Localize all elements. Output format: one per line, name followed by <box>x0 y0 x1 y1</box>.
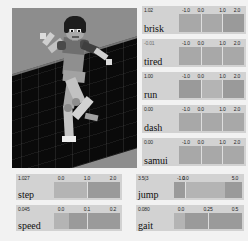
slider-value-samui: 0.00 <box>144 139 153 145</box>
slider-divider-step-1 <box>87 182 88 198</box>
slider-speed[interactable]: 0.045speed0.00.10.2 <box>16 205 122 231</box>
slider-divider-samui-2 <box>222 146 223 164</box>
slider-divider-dash-1 <box>201 113 202 131</box>
slider-label-run: run <box>144 89 157 100</box>
figure-right-pupil <box>78 30 80 32</box>
slider-run[interactable]: 1.00run-1.00.01.02.0 <box>142 72 246 100</box>
slider-tick-run-2: 1.0 <box>219 73 225 79</box>
slider-label-dash: dash <box>144 122 162 133</box>
slider-tick-samui-2: 1.0 <box>219 139 225 145</box>
figure-hair-left <box>64 22 69 33</box>
slider-fill-step[interactable] <box>54 182 88 198</box>
slider-jump[interactable]: 3.5(3jump-1.00.05.0 <box>136 174 244 200</box>
slider-divider-samui-1 <box>201 146 202 164</box>
slider-track-speed[interactable] <box>54 213 120 229</box>
slider-tick-labels-step: 0.01.02.0 <box>54 175 120 181</box>
slider-track-run[interactable] <box>179 80 244 98</box>
slider-label-speed: speed <box>18 220 41 231</box>
slider-divider-gait-1 <box>208 213 209 229</box>
slider-tick-labels-dash: -1.00.01.02.0 <box>179 106 244 112</box>
slider-label-gait: gait <box>138 220 153 231</box>
figure-hair-right <box>81 22 86 33</box>
slider-track-gait[interactable] <box>174 213 242 229</box>
slider-tick-speed-0: 0.0 <box>58 206 64 212</box>
slider-tick-run-0: -1.0 <box>182 73 190 79</box>
slider-divider-tired-1 <box>201 47 202 65</box>
slider-tick-labels-speed: 0.00.10.2 <box>54 206 120 212</box>
slider-tick-labels-gait: 0.00.250.5 <box>174 206 242 212</box>
slider-track-jump[interactable] <box>174 182 242 198</box>
slider-value-tired: -0.01 <box>144 40 154 46</box>
slider-tired[interactable]: -0.01tired-1.00.01.02.0 <box>142 39 246 67</box>
slider-tick-tired-0: -1.0 <box>182 40 190 46</box>
figure-left-shoulder <box>57 41 66 50</box>
slider-tick-step-2: 2.0 <box>110 175 116 181</box>
slider-fill-jump[interactable] <box>185 182 225 198</box>
figure-mouth <box>72 36 79 38</box>
slider-tick-gait-0: 0.0 <box>178 206 184 212</box>
slider-gait[interactable]: 0.080gait0.00.250.5 <box>136 205 244 231</box>
slider-tick-samui-0: -1.0 <box>182 139 190 145</box>
slider-tick-speed-1: 0.1 <box>84 206 90 212</box>
humanoid-figure <box>12 8 137 168</box>
slider-tick-labels-tired: -1.00.01.02.0 <box>179 40 244 46</box>
figure-back-foot <box>62 136 76 142</box>
slider-divider-brisk-2 <box>222 14 223 32</box>
slider-label-step: step <box>18 189 34 200</box>
slider-divider-run-1 <box>201 80 202 98</box>
slider-tick-gait-1: 0.25 <box>204 206 213 212</box>
slider-value-brisk: 1.02 <box>144 7 153 13</box>
slider-value-step: 1.027 <box>18 175 30 181</box>
app-root: 1.02brisk-1.00.01.02.0-0.01tired-1.00.01… <box>0 0 248 241</box>
slider-tick-step-0: 0.0 <box>58 175 64 181</box>
character-viewport[interactable] <box>12 8 137 168</box>
slider-fill-gait[interactable] <box>174 213 185 229</box>
slider-tick-dash-0: -1.0 <box>182 106 190 112</box>
figure-front-foot <box>85 113 99 122</box>
slider-track-samui[interactable] <box>179 146 244 164</box>
slider-step[interactable]: 1.027step0.01.02.0 <box>16 174 122 200</box>
slider-tick-step-1: 1.0 <box>84 175 90 181</box>
slider-tick-jump-2: 5.0 <box>232 175 238 181</box>
slider-fill-samui[interactable] <box>179 146 244 164</box>
slider-samui[interactable]: 0.00samui-1.00.01.02.0 <box>142 138 246 166</box>
slider-value-speed: 0.045 <box>18 206 30 212</box>
slider-value-run: 1.00 <box>144 73 153 79</box>
slider-track-dash[interactable] <box>179 113 244 131</box>
figure-back-knee <box>64 104 72 112</box>
slider-tick-tired-3: 2.0 <box>234 40 240 46</box>
figure-left-hand <box>40 33 46 39</box>
slider-tick-speed-2: 0.2 <box>110 206 116 212</box>
slider-tick-tired-2: 1.0 <box>219 40 225 46</box>
slider-divider-run-2 <box>222 80 223 98</box>
slider-tick-dash-1: 0.0 <box>197 106 203 112</box>
slider-tick-dash-2: 1.0 <box>219 106 225 112</box>
slider-tick-run-1: 0.0 <box>197 73 203 79</box>
slider-divider-tired-2 <box>222 47 223 65</box>
slider-tick-labels-samui: -1.00.01.02.0 <box>179 139 244 145</box>
slider-fill-dash[interactable] <box>179 113 244 131</box>
slider-value-dash: 0.00 <box>144 106 153 112</box>
slider-fill-speed[interactable] <box>54 213 69 229</box>
slider-tick-brisk-2: 1.0 <box>219 7 225 13</box>
slider-tick-jump-1: 0.0 <box>182 175 188 181</box>
slider-tick-samui-3: 2.0 <box>234 139 240 145</box>
slider-dash[interactable]: 0.00dash-1.00.01.02.0 <box>142 105 246 133</box>
slider-label-samui: samui <box>144 155 168 166</box>
slider-track-brisk[interactable] <box>179 14 244 32</box>
slider-label-tired: tired <box>144 56 162 67</box>
slider-fill-tired[interactable] <box>179 47 244 65</box>
slider-tick-brisk-0: -1.0 <box>182 7 190 13</box>
slider-fill-run[interactable] <box>201 80 223 98</box>
slider-divider-jump-1 <box>185 182 186 198</box>
slider-track-tired[interactable] <box>179 47 244 65</box>
slider-tick-dash-3: 2.0 <box>234 106 240 112</box>
slider-brisk[interactable]: 1.02brisk-1.00.01.02.0 <box>142 6 246 34</box>
slider-divider-brisk-1 <box>201 14 202 32</box>
slider-tick-run-3: 2.0 <box>234 73 240 79</box>
slider-divider-speed-1 <box>87 213 88 229</box>
slider-track-step[interactable] <box>54 182 120 198</box>
figure-right-hand <box>106 59 112 65</box>
slider-tick-labels-brisk: -1.00.01.02.0 <box>179 7 244 13</box>
slider-value-gait: 0.080 <box>138 206 150 212</box>
